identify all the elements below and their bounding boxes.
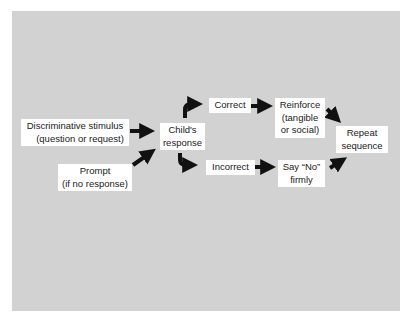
node-line: (if no response): [60, 178, 130, 191]
node-line: Correct: [211, 99, 249, 112]
node-childs-response: Child's response: [160, 123, 205, 150]
node-line: sequence: [338, 140, 386, 153]
node-prompt: Prompt (if no response): [58, 164, 132, 191]
node-line: Prompt: [60, 165, 130, 178]
node-line: (question or request): [23, 133, 127, 146]
node-line: or social): [277, 124, 323, 137]
node-reinforce: Reinforce (tangible or social): [275, 98, 325, 138]
node-say-no: Say “No” firmly: [278, 160, 325, 187]
node-correct: Correct: [209, 98, 251, 113]
node-incorrect: Incorrect: [206, 160, 255, 175]
node-line: Say “No”: [280, 161, 323, 174]
node-line: Child's: [162, 124, 203, 137]
node-repeat-sequence: Repeat sequence: [336, 126, 388, 153]
node-line: Incorrect: [208, 161, 253, 174]
arrow-response-to-correct: [185, 104, 196, 118]
arrow-prompt-to-response: [133, 153, 150, 165]
arrow-reinforce-to-repeat: [327, 109, 336, 118]
node-line: response: [162, 137, 203, 150]
node-line: Reinforce: [277, 99, 323, 112]
node-line: Discriminative stimulus: [23, 120, 127, 133]
node-line: firmly: [280, 174, 323, 187]
node-discriminative-stimulus: Discriminative stimulus (question or req…: [21, 119, 129, 146]
node-line: (tangible: [277, 112, 323, 125]
node-line: Repeat: [338, 127, 386, 140]
arrow-response-to-incorrect: [180, 153, 191, 165]
arrow-sayno-to-repeat: [330, 161, 341, 168]
